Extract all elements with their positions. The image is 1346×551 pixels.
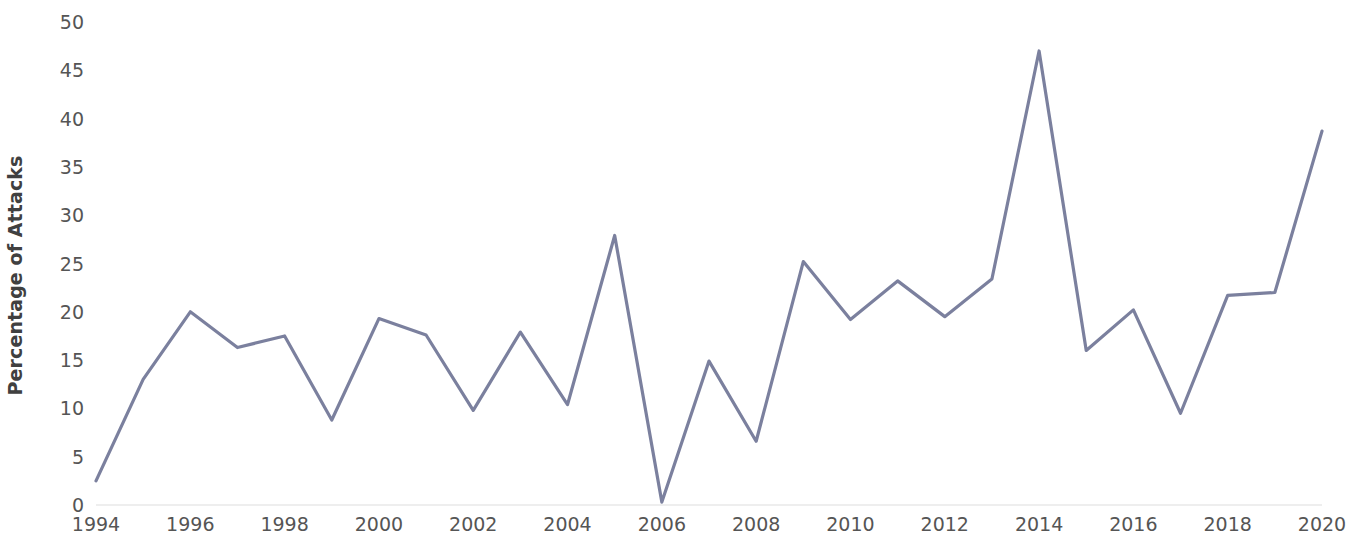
plot-svg: [0, 0, 1346, 551]
plot-area: [0, 0, 1346, 551]
line-chart: Percentage of Attacks 051015202530354045…: [0, 0, 1346, 551]
data-series-line: [96, 51, 1322, 502]
